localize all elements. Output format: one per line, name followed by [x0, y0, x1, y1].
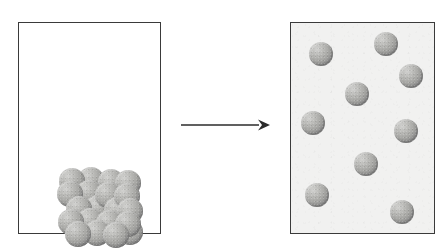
gas-particle [374, 32, 398, 56]
solid-particle [103, 222, 129, 248]
gas-particle [394, 119, 418, 143]
solid-particle [65, 221, 91, 247]
reaction-arrow [180, 114, 272, 136]
diagram-canvas [0, 0, 448, 250]
gas-particle [309, 42, 333, 66]
gas-state-container [290, 22, 435, 234]
solid-particle-cluster [57, 167, 143, 247]
arrow-right-icon [180, 114, 272, 136]
gas-particle [390, 200, 414, 224]
gas-particle [399, 64, 423, 88]
gas-particle [301, 111, 325, 135]
gas-particle [354, 152, 378, 176]
gas-particle [345, 82, 369, 106]
solid-state-container [18, 22, 161, 234]
gas-particle [305, 183, 329, 207]
